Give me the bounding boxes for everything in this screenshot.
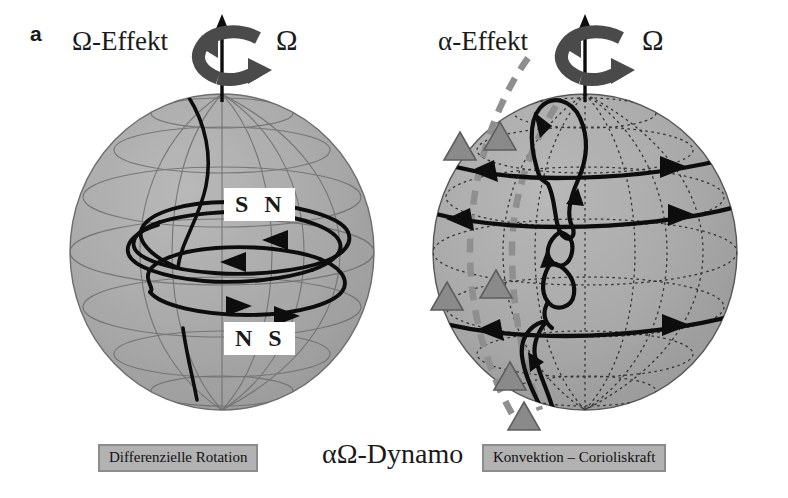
figure-root: a Ω-Effekt Ω α-Effekt Ω S N N S Differen… <box>0 0 788 498</box>
convection-arrowhead-icon <box>444 132 476 160</box>
diagram-canvas <box>0 0 788 498</box>
left-caption-box: Differenzielle Rotation <box>98 444 258 472</box>
right-caption-box: Konvektion – Corioliskraft <box>482 444 666 472</box>
alpha-effect-title: α-Effekt <box>438 26 528 57</box>
right-rotation-arrow <box>561 32 635 84</box>
rotation-arrow-icon <box>248 58 272 84</box>
convection-arrowhead-icon <box>508 402 540 430</box>
pole-label-upper: S N <box>224 188 295 221</box>
left-sphere-group <box>70 94 374 410</box>
dynamo-center-label: αΩ-Dynamo <box>322 438 463 470</box>
left-rotation-arrow <box>198 32 272 84</box>
pole-label-lower: N S <box>224 322 295 355</box>
right-sphere-group <box>414 58 740 430</box>
rotation-arrow-icon <box>611 58 635 84</box>
left-omega-symbol: Ω <box>276 24 298 57</box>
omega-effect-title: Ω-Effekt <box>72 26 168 57</box>
right-omega-symbol: Ω <box>642 24 664 57</box>
panel-label: a <box>30 22 42 46</box>
